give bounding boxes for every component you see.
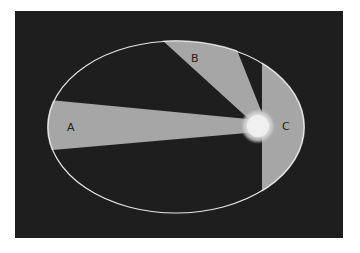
sector-c-label: C — [282, 120, 290, 133]
kepler-orbit-diagram — [0, 0, 360, 253]
sector-b — [140, 20, 264, 122]
sector-a-label: A — [67, 121, 75, 134]
sector-a — [30, 98, 258, 152]
sector-b-label: B — [191, 52, 199, 65]
sun — [247, 115, 269, 137]
